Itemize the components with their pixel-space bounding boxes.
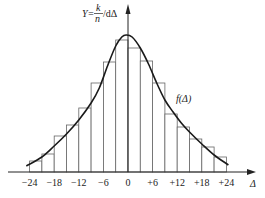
- x-tick-label: +18: [194, 177, 210, 188]
- x-tick-label: −6: [98, 177, 109, 188]
- x-tick-labels: −24−18−12−60+6+12+18+24: [22, 177, 234, 188]
- x-tick-label: +24: [219, 177, 235, 188]
- histogram-bar: [177, 127, 189, 172]
- histogram-bar: [103, 62, 115, 172]
- histogram-bar: [42, 154, 54, 172]
- svg-text:/dΔ: /dΔ: [103, 8, 118, 19]
- svg-text:Y=: Y=: [82, 8, 94, 19]
- histogram-bar: [140, 61, 152, 172]
- x-tick-label: −24: [22, 177, 38, 188]
- x-tick-label: 0: [126, 177, 131, 188]
- x-tick-label: −18: [46, 177, 62, 188]
- x-tick-label: −12: [71, 177, 87, 188]
- histogram-bar: [91, 83, 103, 172]
- x-axis-label: Δ: [249, 178, 256, 189]
- histogram-bar: [190, 139, 202, 172]
- histogram-chart: −24−18−12−60+6+12+18+24 Δ Y= k n /dΔ f(Δ…: [0, 0, 265, 198]
- y-axis-label: Y= k n /dΔ: [82, 2, 118, 24]
- svg-text:k: k: [96, 2, 101, 13]
- curve-label: f(Δ): [176, 93, 192, 105]
- svg-text:n: n: [95, 13, 100, 24]
- histogram-bar: [54, 136, 66, 172]
- histogram-bar: [128, 48, 140, 172]
- histogram-bar: [165, 114, 177, 172]
- x-tick-label: +12: [169, 177, 185, 188]
- histogram-bar: [116, 40, 128, 172]
- x-axis-arrow-icon: [247, 169, 256, 175]
- y-axis-arrow-icon: [126, 4, 131, 14]
- x-tick-label: +6: [147, 177, 158, 188]
